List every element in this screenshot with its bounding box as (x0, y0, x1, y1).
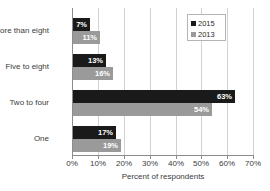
bar-2015-more-than-eight[interactable]: 7% (72, 18, 90, 31)
bar-value-2015-one: 17% (98, 129, 113, 137)
legend-item-2015[interactable]: 2015 (191, 18, 225, 28)
bar-value-2013-two-to-four: 54% (194, 106, 209, 114)
bar-value-2013-one: 19% (103, 142, 118, 150)
category-label-more-than-eight: More than eight (0, 26, 49, 36)
category-label-one: One (0, 134, 49, 144)
bar-2013-one[interactable]: 19% (72, 139, 121, 152)
legend-label-2013: 2013 (198, 30, 215, 39)
legend: 2015 2013 (187, 14, 226, 41)
bar-group-one: One 17% 19% (72, 126, 253, 162)
bar-2013-five-to-eight[interactable]: 16% (72, 67, 113, 80)
legend-swatch-2015-icon (191, 21, 196, 26)
bar-chart: More than eight 7% 11% Five to eight 13%… (0, 0, 270, 191)
gridline-70 (253, 8, 254, 155)
bar-2013-two-to-four[interactable]: 54% (72, 103, 212, 116)
bar-value-2015-two-to-four: 63% (217, 93, 232, 101)
bar-2013-more-than-eight[interactable]: 11% (72, 31, 100, 44)
bar-group-two-to-four: Two to four 63% 54% (72, 90, 253, 126)
x-tick-label-70: 70% (238, 159, 268, 169)
bar-value-2013-five-to-eight: 16% (95, 70, 110, 78)
bar-2015-two-to-four[interactable]: 63% (72, 90, 235, 103)
bar-2015-five-to-eight[interactable]: 13% (72, 54, 106, 67)
bar-value-2015-more-than-eight: 7% (76, 21, 87, 29)
bar-group-five-to-eight: Five to eight 13% 16% (72, 54, 253, 90)
bar-value-2015-five-to-eight: 13% (88, 57, 103, 65)
bar-2015-one[interactable]: 17% (72, 126, 116, 139)
legend-label-2015: 2015 (198, 19, 215, 28)
legend-item-2013[interactable]: 2013 (191, 29, 225, 39)
x-axis-title: Percent of respondents (72, 172, 254, 182)
bar-value-2013-more-than-eight: 11% (82, 34, 97, 42)
y-axis-line (72, 8, 73, 155)
category-label-five-to-eight: Five to eight (0, 62, 49, 72)
category-label-two-to-four: Two to four (0, 98, 49, 108)
legend-swatch-2013-icon (191, 32, 196, 37)
